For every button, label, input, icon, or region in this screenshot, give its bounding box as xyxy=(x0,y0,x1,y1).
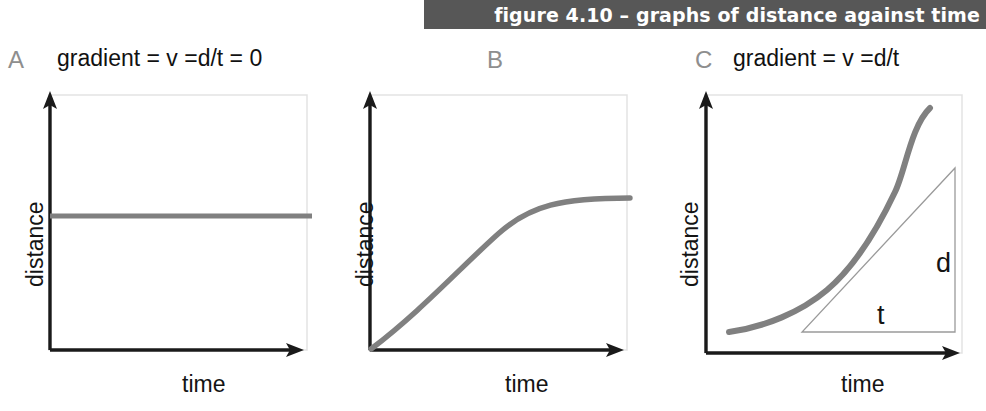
graph-frame-box-b xyxy=(369,95,627,350)
panel-letter-b: B xyxy=(487,48,503,72)
panel-equation-a: gradient = v =d/t = 0 xyxy=(57,47,262,70)
x-axis-label-c: time xyxy=(841,373,884,396)
triangle-rise-label-d: d xyxy=(936,250,951,277)
graph-a-svg xyxy=(0,86,330,411)
panel-equation-c: gradient = v =d/t xyxy=(733,47,899,70)
curve-saturating-distance-b xyxy=(371,198,630,349)
figure-caption-banner: figure 4.10 – graphs of distance against… xyxy=(424,0,986,29)
panel-letter-c: C xyxy=(695,48,712,72)
graph-panel-b: time distance xyxy=(330,86,660,411)
x-axis-label-a: time xyxy=(182,373,225,396)
graph-panel-c: d t time distance xyxy=(655,86,985,411)
y-axis-label-c: distance xyxy=(679,201,702,287)
x-axis-label-b: time xyxy=(505,373,548,396)
graph-frame-box-c xyxy=(705,95,962,353)
panel-letter-a: A xyxy=(8,48,24,72)
curve-exponential-distance-c xyxy=(729,108,930,332)
graph-panel-a: time distance xyxy=(0,86,330,411)
graph-b-svg xyxy=(330,86,660,411)
triangle-run-label-t: t xyxy=(877,302,885,329)
y-axis-label-b: distance xyxy=(354,201,377,287)
graph-frame-box-a xyxy=(49,95,307,350)
y-axis-label-a: distance xyxy=(24,201,47,287)
